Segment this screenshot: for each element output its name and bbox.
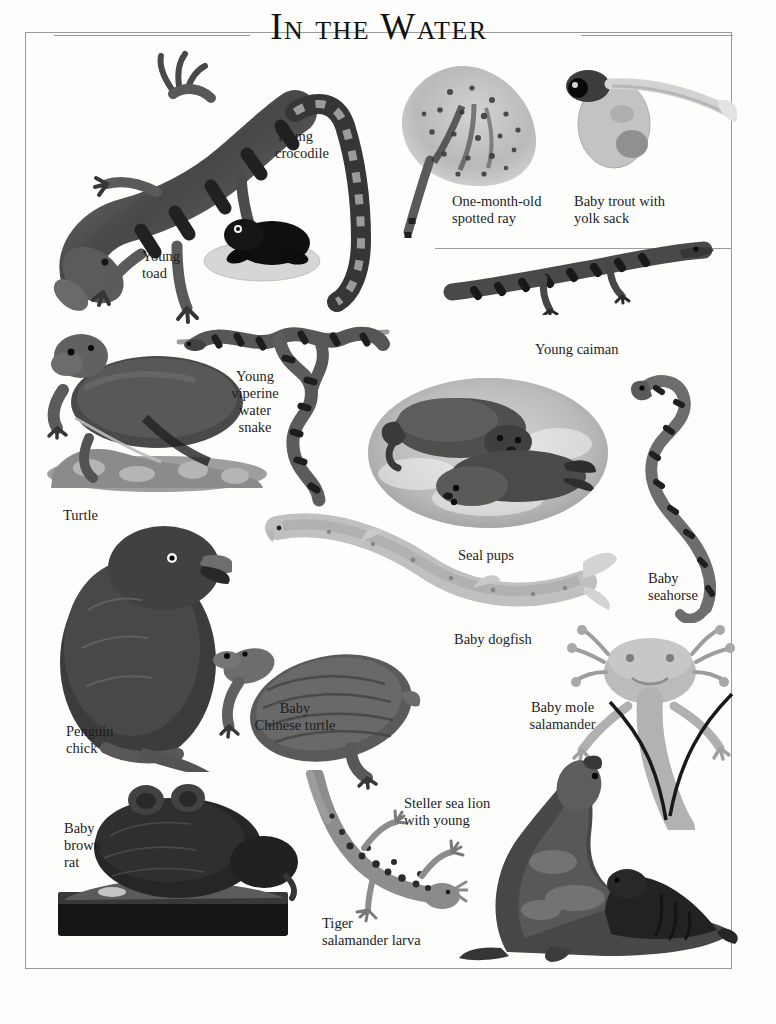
specimen-steller-sea-lion-with-young bbox=[455, 752, 740, 967]
specimen-young-crocodile bbox=[45, 40, 375, 330]
caption-young-toad: Young toad bbox=[142, 248, 232, 282]
caption-baby-brown-rat: Baby brown rat bbox=[64, 820, 144, 871]
caption-steller-sea-lion-with-young: Steller sea lion with young bbox=[404, 795, 544, 829]
book-page: In the Water bbox=[0, 0, 776, 1024]
caption-baby-seahorse: Baby seahorse bbox=[648, 570, 738, 604]
caption-baby-mole-salamander: Baby mole salamander bbox=[505, 699, 620, 733]
caption-young-viperine-water-snake: Young viperine water snake bbox=[215, 368, 295, 436]
caption-baby-dogfish: Baby dogfish bbox=[454, 631, 574, 648]
specimen-baby-dogfish bbox=[265, 512, 620, 622]
caption-young-caiman: Young caiman bbox=[535, 341, 675, 358]
caption-tiger-salamander-larva: Tiger salamander larva bbox=[322, 915, 472, 949]
caption-turtle: Turtle bbox=[63, 507, 143, 524]
caption-baby-chinese-turtle: Baby Chinese turtle bbox=[240, 700, 350, 734]
specimen-young-caiman bbox=[440, 240, 720, 315]
caption-seal-pups: Seal pups bbox=[458, 547, 558, 564]
caption-one-month-old-spotted-ray: One-month-old spotted ray bbox=[452, 193, 582, 227]
specimen-tiger-salamander-larva bbox=[298, 770, 468, 925]
title-rule-right bbox=[581, 35, 733, 36]
specimen-seal-pups bbox=[368, 378, 608, 528]
caption-baby-trout-with-yolk-sack: Baby trout with yolk sack bbox=[574, 193, 704, 227]
specimen-baby-trout-with-yolk-sack bbox=[558, 62, 738, 172]
caption-young-crocodile: Young crocodile bbox=[275, 128, 385, 162]
caption-penguin-chick: Penguin chick bbox=[66, 723, 156, 757]
